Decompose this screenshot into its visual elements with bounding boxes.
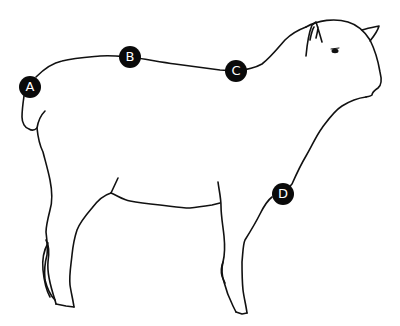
- front-leg-back-outline: [218, 182, 236, 312]
- front-leg-front-outline: [242, 197, 272, 313]
- back-outline: [36, 27, 306, 77]
- eye-icon: [332, 49, 339, 53]
- front-hoof-outline: [236, 312, 247, 314]
- point-marker-d: D: [272, 183, 294, 205]
- hind-leg-front-outline: [70, 193, 111, 307]
- point-marker-b: B: [119, 46, 141, 68]
- point-marker-c: C: [225, 60, 247, 82]
- hind-leg-back-outline: [37, 128, 56, 304]
- rump-outline: [22, 96, 45, 130]
- hind-hoof-outline: [56, 304, 74, 307]
- point-marker-a: A: [19, 76, 41, 98]
- belly-outline: [111, 193, 220, 208]
- neck-outline: [283, 97, 366, 194]
- sheep-outline-drawing: [0, 0, 400, 326]
- flank-crease: [111, 178, 118, 193]
- left-ear-outline: [306, 22, 322, 56]
- eye-lash: [331, 48, 339, 49]
- sheep-diagram: A B C D: [0, 0, 400, 326]
